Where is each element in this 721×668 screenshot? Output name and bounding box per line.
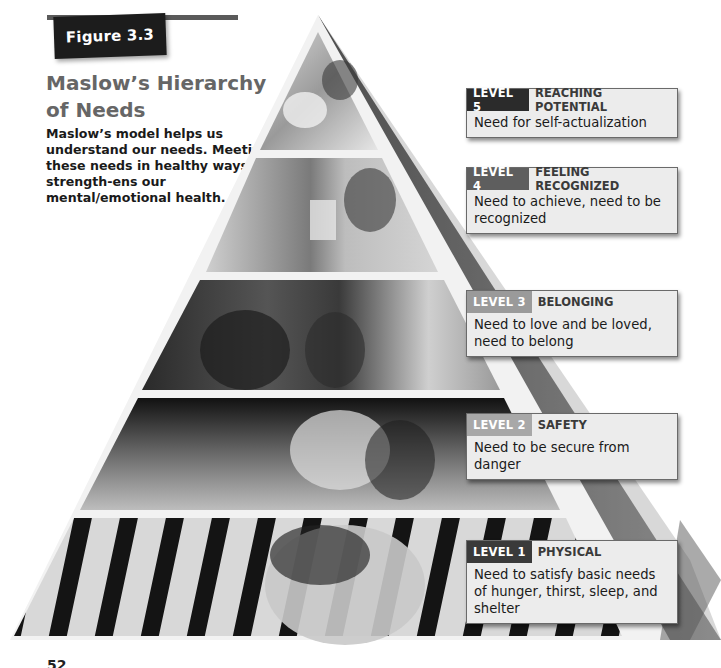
- level-3-text: Need to love and be loved, need to belon…: [467, 313, 677, 356]
- level-4-name: FEELING RECOGNIZED: [529, 168, 677, 190]
- level-4-badge: LEVEL 4: [467, 168, 529, 190]
- level-1-box: LEVEL 1 PHYSICAL Need to satisfy basic n…: [466, 540, 678, 624]
- figure-tag: Figure 3.3: [53, 13, 166, 59]
- tier-5-photo: [260, 32, 378, 150]
- level-1-name: PHYSICAL: [532, 541, 608, 563]
- level-3-badge: LEVEL 3: [467, 291, 532, 313]
- page-number: 52: [47, 657, 66, 668]
- level-2-box: LEVEL 2 SAFETY Need to be secure from da…: [466, 413, 678, 480]
- level-4-text: Need to achieve, need to be recognized: [467, 190, 677, 233]
- level-1-badge: LEVEL 1: [467, 541, 532, 563]
- level-3-box: LEVEL 3 BELONGING Need to love and be lo…: [466, 290, 678, 357]
- level-5-box: LEVEL 5 REACHING POTENTIAL Need for self…: [466, 88, 678, 138]
- figure-title: Maslow’s Hierarchy of Needs: [46, 70, 286, 124]
- level-5-badge: LEVEL 5: [467, 89, 529, 111]
- figure-tag-label: Figure 3.3: [66, 25, 155, 46]
- level-5-name: REACHING POTENTIAL: [529, 89, 677, 111]
- tier-3-photo: [142, 280, 500, 390]
- level-5-text: Need for self-actualization: [467, 111, 677, 137]
- level-3-name: BELONGING: [532, 291, 620, 313]
- level-2-badge: LEVEL 2: [467, 414, 532, 436]
- level-1-text: Need to satisfy basic needs of hunger, t…: [467, 563, 677, 623]
- level-2-text: Need to be secure from danger: [467, 436, 677, 479]
- level-2-name: SAFETY: [532, 414, 593, 436]
- level-4-box: LEVEL 4 FEELING RECOGNIZED Need to achie…: [466, 167, 678, 234]
- tier-4-photo: [206, 158, 438, 272]
